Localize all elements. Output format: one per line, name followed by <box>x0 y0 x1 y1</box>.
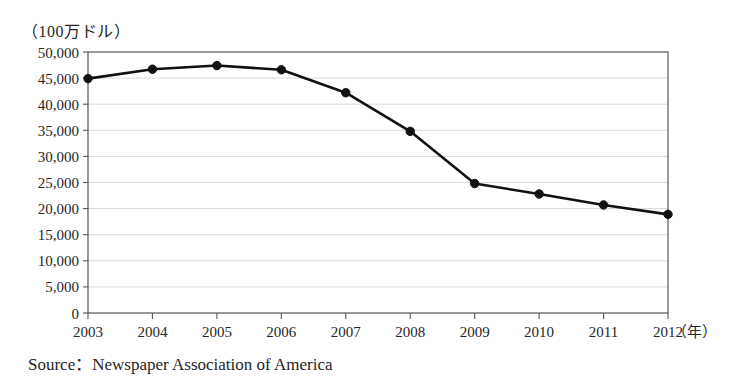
data-point-marker <box>599 201 607 209</box>
x-axis-tick-label: 2005 <box>202 324 232 340</box>
chart-figure: （100万ドル） 05,00010,00015,00020,00025,0003… <box>0 0 737 377</box>
grid-lines <box>88 78 668 287</box>
y-axis-tick-label: 30,000 <box>38 149 79 165</box>
data-point-marker <box>148 65 156 73</box>
y-axis-tick-labels: 05,00010,00015,00020,00025,00030,00035,0… <box>38 45 79 322</box>
y-axis-ticks <box>83 52 88 313</box>
line-chart-plot: 05,00010,00015,00020,00025,00030,00035,0… <box>0 0 737 377</box>
data-point-marker <box>470 179 478 187</box>
y-axis-tick-label: 5,000 <box>45 279 79 295</box>
source-caption: Source：Newspaper Association of America <box>28 350 333 375</box>
data-point-marker <box>342 89 350 97</box>
data-point-marker <box>277 66 285 74</box>
y-axis-tick-label: 35,000 <box>38 123 79 139</box>
x-axis-tick-labels: 2003200420052006200720082009201020112012 <box>73 324 683 340</box>
data-point-marker <box>84 74 92 82</box>
data-series-line <box>88 66 668 215</box>
data-point-marker <box>406 127 414 135</box>
y-axis-tick-label: 25,000 <box>38 175 79 191</box>
y-axis-tick-label: 20,000 <box>38 201 79 217</box>
x-axis-tick-label: 2008 <box>395 324 425 340</box>
y-axis-tick-label: 0 <box>72 306 80 322</box>
x-axis-ticks <box>88 313 668 319</box>
data-point-marker <box>535 190 543 198</box>
x-axis-unit-label: （年） <box>672 324 717 340</box>
data-point-marker <box>664 210 672 218</box>
x-axis-tick-label: 2007 <box>331 324 362 340</box>
x-axis-tick-label: 2003 <box>73 324 103 340</box>
x-axis-tick-label: 2011 <box>589 324 618 340</box>
data-point-markers <box>84 61 672 218</box>
x-axis-tick-label: 2004 <box>137 324 168 340</box>
y-axis-tick-label: 50,000 <box>38 45 79 61</box>
x-axis-tick-label: 2009 <box>460 324 490 340</box>
data-point-marker <box>213 61 221 69</box>
x-axis-tick-label: 2006 <box>266 324 297 340</box>
y-axis-tick-label: 45,000 <box>38 71 79 87</box>
x-axis-tick-label: 2010 <box>524 324 554 340</box>
y-axis-tick-label: 10,000 <box>38 253 79 269</box>
y-axis-tick-label: 40,000 <box>38 97 79 113</box>
y-axis-tick-label: 15,000 <box>38 227 79 243</box>
